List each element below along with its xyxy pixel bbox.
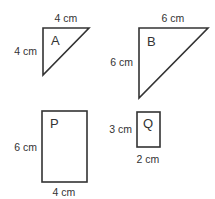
rectangle-p-bottom-label: 4 cm [53, 186, 76, 198]
rectangle-q-name: Q [143, 116, 153, 131]
rectangle-p-side-label: 6 cm [14, 141, 37, 153]
rectangle-p: 6 cm 4 cm P [14, 111, 87, 198]
rectangle-p-name: P [50, 116, 59, 131]
triangle-a: 4 cm 4 cm A [14, 12, 89, 75]
triangle-b-name: B [147, 34, 156, 49]
shapes-diagram: 4 cm 4 cm A 6 cm 6 cm B 6 cm 4 cm P 3 cm… [0, 0, 215, 199]
triangle-a-side-label: 4 cm [14, 45, 37, 57]
triangle-b: 6 cm 6 cm B [110, 12, 208, 98]
rectangle-q: 3 cm 2 cm Q [109, 112, 160, 165]
rectangle-q-side-label: 3 cm [109, 123, 132, 135]
triangle-a-name: A [51, 33, 60, 48]
triangle-b-side-label: 6 cm [110, 56, 133, 68]
triangle-b-top-label: 6 cm [162, 12, 185, 24]
rectangle-q-bottom-label: 2 cm [137, 153, 160, 165]
triangle-a-top-label: 4 cm [55, 12, 78, 24]
